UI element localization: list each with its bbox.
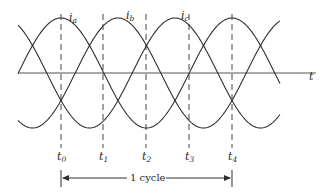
label-t0: t0 [57, 150, 66, 164]
label-t2: t2 [142, 150, 151, 164]
arrowhead-left-icon [62, 175, 69, 181]
axis-label-t: t [309, 70, 314, 83]
label-t3: t3 [185, 150, 194, 164]
label-ia: ia [69, 11, 77, 25]
label-ic: ic [181, 9, 190, 23]
label-ib: ib [126, 9, 135, 23]
arrowhead-right-icon [224, 175, 231, 181]
cycle-label: 1 cycle [130, 172, 166, 183]
three-phase-diagram: t ia ib ic t0 t1 t2 t3 t4 1 cycle [0, 0, 330, 194]
label-t4: t4 [228, 150, 237, 164]
label-t1: t1 [99, 150, 108, 164]
